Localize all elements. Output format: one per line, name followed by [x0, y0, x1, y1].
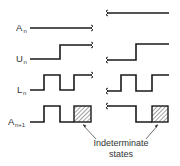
indeterminate-box-right [152, 106, 168, 122]
annotation-arrows [83, 124, 158, 139]
wave-a-n-plus-1-right [107, 106, 152, 122]
timing-diagram: A n U n L n A n+1 [0, 0, 180, 166]
svg-text:n: n [23, 90, 26, 96]
wave-l-n-left [30, 75, 91, 90]
svg-text:U: U [16, 53, 23, 64]
label-l-n: L n [17, 84, 26, 96]
svg-text:L: L [17, 84, 22, 95]
break-mark-icon [91, 25, 93, 31]
label-a-n-plus-1: A n+1 [8, 116, 26, 128]
wave-l-n-right [107, 75, 169, 91]
indeterminate-box-left [74, 106, 91, 122]
break-mark-icon [91, 72, 93, 78]
annotation-line-1: Indeterminate [93, 138, 148, 148]
svg-text:A: A [8, 116, 15, 127]
label-a-n: A n [16, 22, 27, 34]
annotation-line-2: states [109, 149, 134, 159]
svg-text:n+1: n+1 [15, 122, 26, 128]
svg-text:A: A [16, 22, 23, 33]
label-u-n: U n [16, 53, 27, 65]
svg-text:n: n [24, 28, 27, 34]
wave-a-n-plus-1-left [30, 106, 74, 122]
break-mark-icon [91, 42, 93, 48]
right-panel [106, 10, 169, 122]
wave-u-n-right [107, 44, 169, 60]
wave-u-n-left [30, 45, 91, 59]
svg-text:n: n [24, 59, 27, 65]
left-panel [30, 25, 93, 122]
